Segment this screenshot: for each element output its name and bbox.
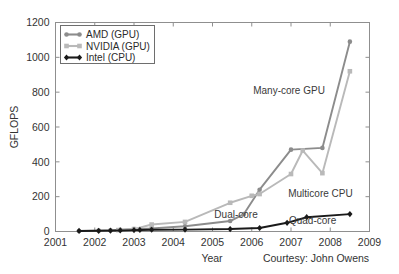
data-point-marker (257, 187, 262, 192)
data-point-marker (320, 171, 325, 176)
y-tick-label: 1000 (26, 51, 50, 63)
data-point-marker (320, 146, 325, 151)
y-tick-label: 800 (32, 86, 50, 98)
y-tick-label: 600 (32, 121, 50, 133)
chart-legend[interactable]: AMD (GPU)NVIDIA (GPU)Intel (CPU) (61, 26, 155, 64)
data-point-marker (257, 192, 262, 197)
chart-canvas: 020040060080010001200 200120022003200420… (0, 0, 399, 274)
data-point-marker (228, 200, 233, 205)
x-tick-label: 2006 (240, 236, 264, 248)
legend-label: NVIDIA (GPU) (86, 41, 150, 52)
x-tick-label: 2002 (83, 236, 107, 248)
x-tick-label: 2004 (162, 236, 186, 248)
y-tick-label: 1200 (26, 16, 50, 28)
data-point-marker (64, 32, 69, 37)
data-point-marker (149, 222, 154, 227)
data-point-marker (300, 148, 305, 153)
legend-label: AMD (GPU) (86, 29, 139, 40)
data-point-marker (289, 172, 294, 177)
data-point-marker (348, 39, 353, 44)
annotation-many-core-gpu: Many-core GPU (253, 85, 325, 96)
x-axis-title: Year (201, 252, 223, 264)
data-point-marker (348, 69, 353, 74)
annotation-dual-core: Dual-core (214, 209, 258, 220)
x-tick-label: 2008 (319, 236, 343, 248)
gflops-performance-chart: 020040060080010001200 200120022003200420… (0, 0, 399, 274)
y-tick-label: 200 (32, 190, 50, 202)
legend-label: Intel (CPU) (86, 52, 135, 63)
data-point-marker (64, 44, 69, 49)
x-tick-label: 2001 (44, 236, 68, 248)
y-tick-label: 400 (32, 156, 50, 168)
y-axis-title: GFLOPS (8, 106, 20, 149)
data-point-marker (77, 44, 82, 49)
annotation-multicore-cpu: Multicore CPU (288, 188, 352, 199)
x-tick-label: 2005 (201, 236, 225, 248)
x-tick-label: 2003 (122, 236, 146, 248)
x-tick-label: 2009 (358, 236, 382, 248)
data-point-marker (249, 193, 254, 198)
annotation-quad-core: Quad-core (289, 215, 337, 226)
data-point-marker (183, 220, 188, 225)
data-point-marker (289, 147, 294, 152)
data-point-marker (77, 32, 82, 37)
x-tick-label: 2007 (279, 236, 303, 248)
credit-label: Courtesy: John Owens (263, 252, 369, 264)
